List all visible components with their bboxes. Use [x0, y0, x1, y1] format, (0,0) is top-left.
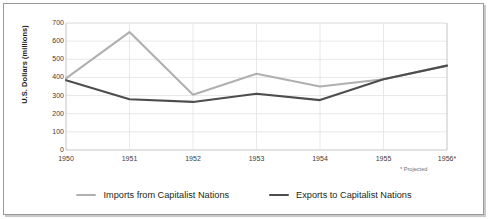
plot-area-wrapper: U.S. Dollars (millions) 7006005004003002…	[0, 0, 488, 219]
projected-footnote: * Projected	[400, 166, 460, 172]
x-axis-tick-label: 1951	[122, 155, 138, 162]
x-axis-tick-label: 1955	[376, 155, 392, 162]
chart-canvas	[0, 0, 488, 219]
x-axis-tick-label: 1954	[312, 155, 328, 162]
chart-screenshot: U.S. Dollars (millions) 7006005004003002…	[0, 0, 488, 219]
x-axis-tick-label: 1952	[185, 155, 201, 162]
x-axis-tick-label: 1953	[249, 155, 265, 162]
x-axis-tick-label: 1956*	[438, 155, 456, 162]
x-axis-tick-label: 1950	[58, 155, 74, 162]
